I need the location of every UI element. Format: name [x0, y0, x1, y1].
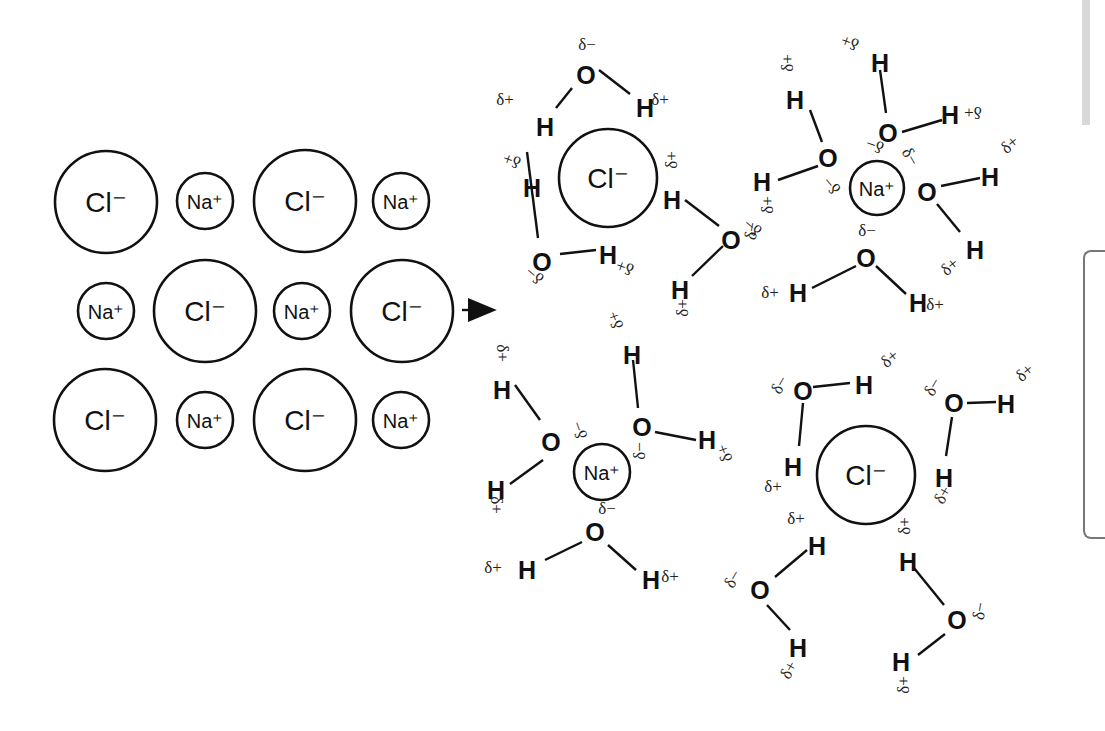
hydrogen-atom: H — [909, 289, 927, 317]
partial-positive-charge: δ+ — [493, 344, 512, 362]
ion-label: Cl⁻ — [587, 163, 628, 194]
hydrogen-atom: H — [981, 163, 999, 191]
covalent-bond — [810, 110, 822, 142]
partial-negative-charge: δ− — [720, 566, 745, 591]
hydrogen-atom: H — [789, 279, 807, 307]
ion-label: Cl⁻ — [84, 405, 125, 436]
partial-negative-charge: δ− — [767, 372, 792, 397]
covalent-bond — [918, 634, 945, 655]
crystal-cl-ion: Cl⁻ — [351, 260, 453, 362]
partial-negative-charge: δ− — [858, 221, 876, 240]
partial-positive-charge: δ+ — [787, 509, 805, 528]
covalent-bond — [937, 204, 960, 232]
oxygen-atom: O — [576, 61, 595, 89]
partial-positive-charge: δ+ — [500, 149, 523, 173]
hydrogen-atom: H — [786, 86, 804, 114]
partial-negative-charge: δ− — [598, 499, 616, 518]
hydrogen-atom: H — [518, 556, 536, 584]
hydrogen-atom: H — [941, 101, 959, 129]
partial-positive-charge: δ+ — [604, 309, 628, 332]
hydrogen-atom: H — [808, 532, 826, 560]
oxygen-atom: O — [856, 244, 875, 272]
partial-positive-charge: δ+ — [661, 567, 679, 586]
partial-negative-charge: δ− — [969, 601, 991, 622]
ion-label: Cl⁻ — [184, 296, 225, 327]
partial-positive-charge: δ+ — [926, 295, 944, 314]
crystal-na-ion: Na⁺ — [177, 392, 233, 448]
crystal-cl-ion: Cl⁻ — [55, 151, 157, 253]
covalent-bond — [778, 166, 818, 180]
covalent-bond — [545, 542, 582, 560]
hydrated-na-ion: Na⁺ — [574, 444, 630, 500]
crystal-cl-ion: Cl⁻ — [54, 369, 156, 471]
partial-negative-charge: δ− — [578, 35, 596, 54]
partial-positive-charge: δ+ — [484, 558, 502, 577]
partial-positive-charge: δ+ — [761, 283, 779, 302]
ion-label: Na⁺ — [187, 191, 224, 213]
covalent-bond — [608, 545, 636, 570]
ion-label: Na⁺ — [383, 410, 420, 432]
crystal-na-ion: Na⁺ — [373, 392, 429, 448]
ion-label: Cl⁻ — [845, 460, 886, 491]
hydrogen-atom: H — [493, 376, 511, 404]
ion-label: Cl⁻ — [284, 405, 325, 436]
partial-positive-charge: δ+ — [894, 676, 913, 694]
hydrated-na-ion: Na⁺ — [850, 161, 904, 215]
partial-positive-charge: δ+ — [651, 90, 669, 109]
ion-label: Na⁺ — [383, 191, 420, 213]
hydrogen-atom: H — [642, 566, 660, 594]
partial-positive-charge: δ+ — [964, 103, 982, 122]
crystal-cl-ion: Cl⁻ — [254, 369, 356, 471]
hydrogen-atom: H — [892, 648, 910, 676]
hydrogen-atom: H — [536, 113, 554, 141]
partial-positive-charge: δ+ — [673, 299, 692, 317]
ion-label: Na⁺ — [859, 178, 896, 200]
hydrogen-atom: H — [663, 186, 681, 214]
partial-positive-charge: δ+ — [1012, 360, 1038, 386]
covalent-bond — [902, 120, 942, 132]
partial-positive-charge: δ+ — [487, 496, 506, 514]
covalent-bond — [775, 550, 807, 577]
ion-label: Cl⁻ — [85, 187, 126, 218]
oxygen-atom: O — [585, 518, 604, 546]
partial-positive-charge: δ+ — [778, 54, 797, 72]
oxygen-atom: O — [917, 178, 936, 206]
partial-positive-charge: δ+ — [997, 132, 1023, 158]
partial-positive-charge: δ+ — [496, 90, 514, 109]
partial-positive-charge: δ+ — [937, 254, 963, 280]
nacl-crystal-lattice: Cl⁻Na⁺Cl⁻Na⁺Na⁺Cl⁻Na⁺Cl⁻Cl⁻Na⁺Cl⁻Na⁺ — [54, 150, 453, 471]
crystal-na-ion: Na⁺ — [373, 173, 429, 229]
partial-negative-charge: δ− — [568, 419, 592, 442]
partial-positive-charge: δ+ — [713, 442, 737, 465]
hydrogen-atom: H — [899, 548, 917, 576]
crystal-na-ion: Na⁺ — [177, 173, 233, 229]
covalent-bond — [556, 88, 572, 108]
partial-positive-charge: δ+ — [895, 517, 914, 535]
partial-negative-charge: δ− — [920, 374, 945, 399]
hydrogen-atom: H — [753, 168, 771, 196]
hydrogen-atom: H — [997, 390, 1015, 418]
covalent-bond — [599, 70, 630, 94]
covalent-bond — [515, 385, 540, 420]
covalent-bond — [812, 266, 856, 288]
crystal-na-ion: Na⁺ — [274, 283, 330, 339]
covalent-bond — [685, 200, 719, 226]
hydrogen-atom: H — [855, 371, 873, 399]
partial-positive-charge: δ+ — [764, 477, 782, 496]
hydrogen-atom: H — [523, 174, 541, 202]
crystal-cl-ion: Cl⁻ — [254, 150, 356, 252]
ion-label: Cl⁻ — [284, 186, 325, 217]
covalent-bond — [767, 605, 790, 630]
partial-positive-charge: δ+ — [662, 151, 681, 169]
oxygen-atom: O — [947, 606, 966, 634]
covalent-bond — [941, 178, 980, 186]
ion-label: Na⁺ — [584, 462, 621, 484]
oxygen-atom: O — [632, 413, 651, 441]
covalent-bond — [510, 460, 543, 484]
hydrated-cl-ion: Cl⁻ — [559, 129, 657, 227]
crystal-cl-ion: Cl⁻ — [154, 260, 256, 362]
ion-label: Cl⁻ — [381, 296, 422, 327]
partial-positive-charge: δ+ — [838, 31, 861, 55]
partial-positive-charge: δ+ — [877, 346, 903, 372]
